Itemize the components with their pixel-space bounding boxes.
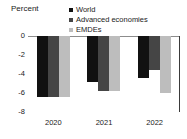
bar-advanced-economies-2022 <box>149 36 160 70</box>
bar-group-2020 <box>30 36 76 112</box>
y-axis-tick-labels: 0-2-4-6-8 <box>14 36 25 112</box>
bar-group-2021 <box>81 36 127 112</box>
legend-swatch-advanced-economies <box>69 18 73 22</box>
legend-swatch-emdes <box>69 28 73 32</box>
plot-area <box>28 36 180 112</box>
chart-legend: World Advanced economies EMDEs <box>69 5 148 34</box>
x-tick-label-2021: 2021 <box>81 118 127 127</box>
legend-item-world: World <box>69 5 148 14</box>
bar-world-2021 <box>87 36 98 82</box>
x-tick-label-2020: 2020 <box>30 118 76 127</box>
legend-label-world: World <box>76 5 95 14</box>
legend-item-emdes: EMDEs <box>69 25 148 34</box>
bar-chart: Percent World Advanced economies EMDEs 0… <box>0 0 187 139</box>
y-tick-label: -2 <box>18 51 25 59</box>
x-axis-tick-labels: 202020212022 <box>28 118 180 127</box>
y-tick-label: -8 <box>18 108 25 116</box>
bar-emdes-2022 <box>160 36 171 93</box>
y-tick-label: 0 <box>21 32 25 40</box>
y-axis-unit-label: Percent <box>11 4 39 14</box>
x-tick-label-2022: 2022 <box>132 118 178 127</box>
legend-label-advanced-economies: Advanced economies <box>76 15 148 24</box>
bar-groups <box>28 36 180 112</box>
bar-world-2020 <box>37 36 48 97</box>
bar-emdes-2020 <box>59 36 70 97</box>
y-tick-label: -6 <box>18 89 25 97</box>
legend-item-advanced-economies: Advanced economies <box>69 15 148 24</box>
legend-label-emdes: EMDEs <box>76 25 101 34</box>
bar-group-2022 <box>132 36 178 112</box>
y-tick-label: -4 <box>18 70 25 78</box>
legend-swatch-world <box>69 8 73 12</box>
bar-advanced-economies-2021 <box>98 36 109 91</box>
bar-emdes-2021 <box>109 36 120 91</box>
bar-advanced-economies-2020 <box>48 36 59 97</box>
bar-world-2022 <box>138 36 149 78</box>
